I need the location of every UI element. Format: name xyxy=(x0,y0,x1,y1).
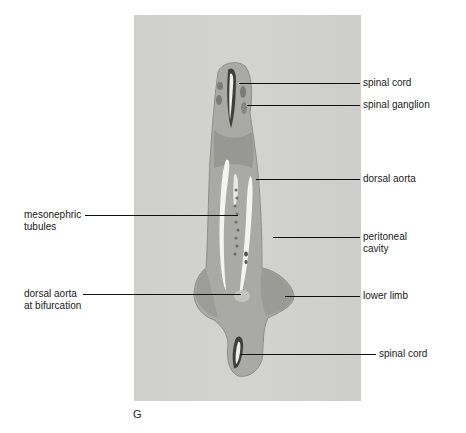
label-at-bifurcation: at bifurcation xyxy=(24,300,81,312)
leader-peritoneal-cavity xyxy=(273,237,360,238)
label-spinal-cord-top: spinal cord xyxy=(363,77,411,89)
leader-spinal-cord-bottom xyxy=(240,354,376,355)
label-dorsal-aorta: dorsal aorta xyxy=(363,173,416,185)
leader-spinal-ganglion xyxy=(247,105,360,106)
leader-dorsal-aorta xyxy=(256,179,360,180)
leader-mesonephric xyxy=(85,215,238,216)
label-tubules: tubules xyxy=(24,221,56,233)
label-dorsal-aorta-bif: dorsal aorta xyxy=(24,288,77,300)
leader-spinal-cord-top xyxy=(239,83,360,84)
label-mesonephric: mesonephric xyxy=(24,209,81,221)
label-spinal-cord-bottom: spinal cord xyxy=(379,348,427,360)
label-cavity: cavity xyxy=(363,243,389,255)
label-peritoneal: peritoneal xyxy=(363,231,407,243)
leader-dorsal-aorta-bifurcation xyxy=(83,294,241,295)
leader-lower-limb xyxy=(285,296,360,297)
label-spinal-ganglion: spinal ganglion xyxy=(363,99,430,111)
label-lower-limb: lower limb xyxy=(363,290,408,302)
figure-letter: G xyxy=(133,408,142,420)
